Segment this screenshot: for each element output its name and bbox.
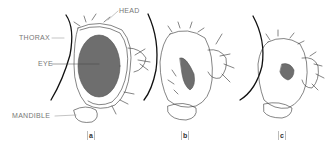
label-eye: EYE bbox=[38, 60, 53, 68]
panel-label-c: c bbox=[280, 131, 284, 140]
fly-head-diagram bbox=[0, 0, 333, 148]
panel-c-drawing bbox=[240, 16, 324, 118]
panel-label-b: b bbox=[183, 131, 187, 140]
panel-a-drawing bbox=[51, 14, 150, 123]
panel-label-a: a bbox=[89, 131, 93, 140]
label-thorax: THORAX bbox=[19, 34, 50, 42]
label-mandible: MANDIBLE bbox=[12, 112, 50, 120]
panel-b-drawing bbox=[144, 14, 234, 120]
label-head: HEAD bbox=[119, 7, 140, 15]
